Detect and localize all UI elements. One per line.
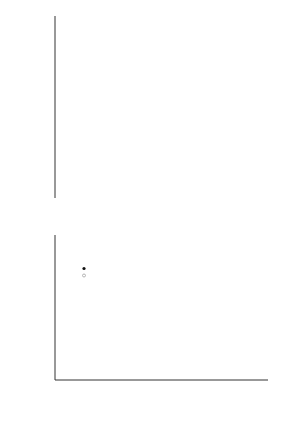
legend-lh-marker (82, 267, 85, 270)
legend-fsh-marker (83, 274, 86, 277)
legend (82, 267, 85, 277)
gonadotropin-panel (55, 235, 268, 380)
growth-hormone-chart (0, 0, 284, 424)
